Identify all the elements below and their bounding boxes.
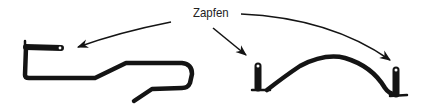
pin-hole-icon	[395, 69, 398, 72]
diagram-figure: Zapfen	[0, 0, 428, 111]
pin-hole-icon	[59, 47, 62, 50]
pin-hole-icon	[257, 65, 260, 68]
right-arch-bracket	[252, 57, 407, 96]
left-hook-bracket	[25, 41, 192, 101]
arrow-to-left-hook-pin	[78, 22, 171, 47]
arrow-to-arch-left-pin	[213, 28, 246, 55]
arrow-to-arch-right-pin	[241, 14, 390, 60]
zapfen-label: Zapfen	[193, 5, 229, 20]
